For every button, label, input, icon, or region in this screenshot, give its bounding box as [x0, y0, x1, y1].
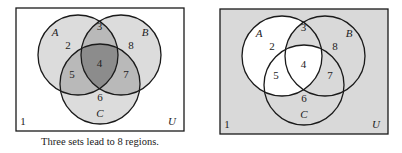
- region-label-8: 8: [128, 39, 134, 51]
- region-label-3: 3: [301, 21, 307, 33]
- region-label-5: 5: [69, 68, 75, 80]
- set-label-a: A: [255, 27, 263, 39]
- region-label-4: 4: [97, 57, 103, 69]
- set-label-b: B: [346, 27, 353, 39]
- region-label-4: 4: [301, 58, 307, 70]
- venn-right: ABCU12345678: [220, 9, 388, 134]
- region-label-5: 5: [273, 69, 279, 81]
- universe-label: U: [372, 118, 381, 130]
- region-label-1: 1: [20, 115, 26, 127]
- region-label-6: 6: [301, 92, 307, 104]
- set-label-a: A: [51, 26, 59, 38]
- region-label-6: 6: [97, 91, 103, 103]
- region-label-3: 3: [97, 20, 103, 32]
- region-label-7: 7: [327, 69, 333, 81]
- region-label-1: 1: [224, 118, 230, 130]
- venn-left: ABCU12345678: [16, 8, 184, 131]
- region-label-7: 7: [123, 68, 129, 80]
- caption: Three sets lead to 8 regions.: [0, 136, 200, 147]
- region-label-8: 8: [332, 40, 338, 52]
- set-label-c: C: [300, 108, 308, 120]
- set-label-c: C: [96, 107, 104, 119]
- region-label-2: 2: [269, 40, 275, 52]
- universe-label: U: [168, 115, 177, 127]
- venn-diagrams: ABCU12345678ABCU12345678: [0, 0, 402, 153]
- region-label-2: 2: [65, 39, 71, 51]
- set-label-b: B: [142, 26, 149, 38]
